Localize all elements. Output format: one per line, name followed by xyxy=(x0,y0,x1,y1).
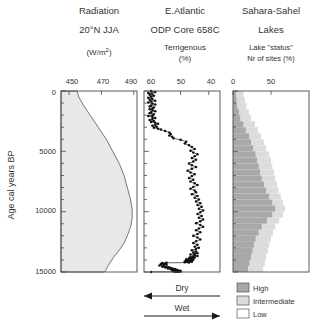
lake-status-bar-segment xyxy=(244,91,309,97)
lake-status-bar-segment xyxy=(258,127,309,133)
odp-data-point xyxy=(196,184,199,187)
lake-status-bar-segment xyxy=(233,121,244,127)
lake-status-bar-segment xyxy=(233,145,254,151)
lake-status-bar-segment xyxy=(237,97,245,103)
lake-status-bar-segment xyxy=(257,157,271,163)
lake-status-bar-segment xyxy=(233,133,249,139)
lake-status-bar-segment xyxy=(233,206,276,212)
odp-data-point xyxy=(198,216,201,219)
odp-data-point xyxy=(189,180,192,183)
odp-data-point xyxy=(192,186,195,189)
lake-status-bar-segment xyxy=(250,260,265,266)
odp-data-point xyxy=(153,126,156,128)
odp-data-point xyxy=(158,264,161,267)
odp-data-point xyxy=(184,261,187,264)
odp-data-point xyxy=(179,139,182,142)
panel-units2-odp: (%) xyxy=(179,54,192,63)
lake-status-bar-segment xyxy=(256,236,271,242)
lake-status-bar-segment xyxy=(283,200,309,206)
lake-status-bar-segment xyxy=(233,103,238,109)
panel-units-lakes: Lake "status" xyxy=(249,43,293,52)
odp-data-point xyxy=(148,112,151,115)
odp-data-point xyxy=(202,218,205,221)
panel-titles: Radiation E.Atlantic Sahara-Sahel 20°N J… xyxy=(79,5,300,63)
odp-data-point xyxy=(195,248,198,251)
legend-label: Intermediate xyxy=(253,297,295,306)
lake-status-bar-segment xyxy=(266,145,309,151)
lake-status-bar-segment xyxy=(233,218,267,224)
lake-status-bar-segment xyxy=(285,206,309,212)
odp-data-point xyxy=(200,215,203,218)
x-tick-odp-40: 40 xyxy=(207,77,215,86)
units-close: ) xyxy=(109,48,112,57)
lakes-plot-area xyxy=(233,91,309,272)
lake-status-bar-segment xyxy=(233,127,246,133)
y-tick-label-15000: 15000 xyxy=(35,267,56,276)
lake-status-bar-segment xyxy=(233,97,237,103)
odp-data-point xyxy=(202,209,205,212)
lake-status-bar-segment xyxy=(266,254,309,260)
lake-status-bar-segment xyxy=(233,169,260,175)
lake-status-bar-segment xyxy=(233,236,256,242)
odp-data-point xyxy=(200,206,203,209)
odp-data-point xyxy=(157,123,160,126)
dry-label: Dry xyxy=(175,283,189,293)
lake-status-bar-segment xyxy=(233,182,264,188)
odp-data-point xyxy=(192,160,195,163)
odp-data-point xyxy=(195,222,198,225)
odp-data-point xyxy=(192,242,195,245)
lake-status-bar-segment xyxy=(233,91,236,97)
panel-units2-lakes: Nr of sites (%) xyxy=(247,54,295,63)
lake-status-bar-segment xyxy=(262,175,276,181)
lake-status-bar-segment xyxy=(233,188,266,194)
x-tick-radiation-470: 470 xyxy=(97,77,110,86)
y-axis: Age cal years BP 0 5000 10000 15000 xyxy=(6,88,56,276)
odp-data-point xyxy=(154,117,157,120)
lake-status-bar-segment xyxy=(246,127,258,133)
odp-data-point xyxy=(191,175,194,178)
lake-status-bar-segment xyxy=(233,212,273,218)
odp-data-point xyxy=(154,99,157,102)
odp-data-point xyxy=(198,207,201,210)
lake-status-bar-segment xyxy=(273,200,284,206)
odp-data-point xyxy=(189,187,192,190)
lake-status-bar-segment xyxy=(269,242,309,248)
units-text: (W/m xyxy=(86,48,105,57)
lake-status-bar-segment xyxy=(249,109,309,115)
lake-status-bar-segment xyxy=(241,115,252,121)
lake-status-bar-segment xyxy=(239,109,249,115)
odp-data-point xyxy=(196,195,199,198)
lake-status-bar-segment xyxy=(273,163,309,169)
lake-status-bar-segment xyxy=(260,169,274,175)
lake-status-bar-segment xyxy=(251,254,266,260)
x-tick-odp-60: 60 xyxy=(147,77,155,86)
odp-x-ticks xyxy=(152,91,208,95)
lake-status-bar-segment xyxy=(249,133,261,139)
odp-data-point xyxy=(195,229,198,232)
odp-data-point xyxy=(193,245,196,248)
lake-status-bar-segment xyxy=(263,266,309,272)
lake-status-bar-segment xyxy=(268,248,309,254)
lake-status-bar-segment xyxy=(253,248,268,254)
odp-data-point xyxy=(188,162,191,165)
panel-units-radiation: (W/m2) xyxy=(86,47,111,57)
x-tick-radiation-490: 490 xyxy=(125,77,138,86)
odp-data-point xyxy=(148,108,151,111)
odp-data-point xyxy=(186,169,189,172)
lake-status-bar-segment xyxy=(244,121,255,127)
lake-status-bar-segment xyxy=(233,139,251,145)
odp-data-point xyxy=(202,226,205,229)
lake-status-bar-segment xyxy=(283,212,309,218)
lake-status-bar-segment xyxy=(259,230,273,236)
lake-status-bar-segment xyxy=(274,169,309,175)
x-tick-lakes-50: 50 xyxy=(267,77,275,86)
legend-label: Low xyxy=(253,310,267,319)
panel-odp: 60 50 40 Dry Wet xyxy=(144,77,220,320)
odp-data-point xyxy=(189,149,192,152)
dry-wet-annotation: Dry Wet xyxy=(144,283,220,320)
odp-data-point xyxy=(147,101,150,104)
dry-arrow-head xyxy=(144,292,152,299)
odp-data-point xyxy=(191,164,194,167)
odp-data-point xyxy=(150,121,153,124)
odp-data-point xyxy=(192,151,195,154)
